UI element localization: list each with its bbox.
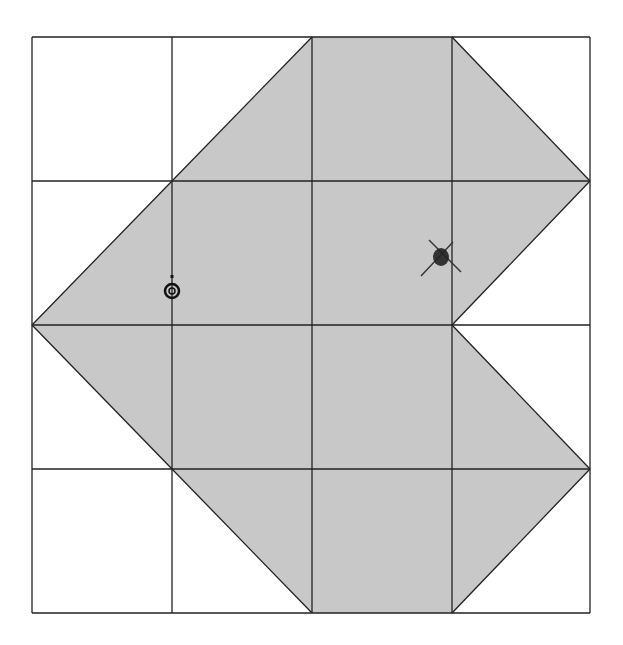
grid-diagram	[0, 0, 623, 645]
